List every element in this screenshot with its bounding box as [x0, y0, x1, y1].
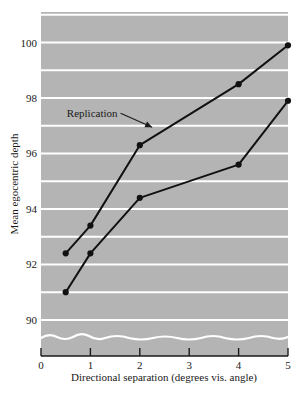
x-axis-tick-label: 5	[285, 359, 291, 371]
data-point	[285, 42, 291, 48]
x-axis-title: Directional separation (degrees vis. ang…	[71, 371, 257, 384]
y-axis-tick-label: 100	[21, 37, 38, 49]
x-axis-tick-label: 2	[137, 359, 143, 371]
chart-svg: 012345 9092949698100 Directional separat…	[0, 0, 302, 402]
x-axis-tick-label: 4	[236, 359, 242, 371]
plot-area-background	[41, 12, 288, 356]
y-axis-tick-label: 94	[26, 203, 38, 215]
data-point	[137, 142, 143, 148]
data-point	[63, 289, 69, 295]
x-axis-tick-label: 3	[186, 359, 192, 371]
data-point	[63, 250, 69, 256]
data-point	[87, 223, 93, 229]
data-point	[87, 250, 93, 256]
data-point	[285, 98, 291, 104]
x-axis-tick-label: 0	[38, 359, 44, 371]
y-axis-tick-label: 92	[26, 258, 37, 270]
y-axis-tick-label: 98	[26, 92, 38, 104]
x-axis-tick-label: 1	[88, 359, 94, 371]
y-axis-tick-label: 90	[26, 314, 38, 326]
data-point	[236, 81, 242, 87]
data-point	[137, 195, 143, 201]
y-axis-title: Mean egocentric depth	[8, 133, 20, 234]
y-axis-tick-label: 96	[26, 147, 38, 159]
figure-container: 012345 9092949698100 Directional separat…	[0, 0, 302, 402]
series-annotation-label: Replication	[67, 107, 118, 119]
data-point	[236, 161, 242, 167]
